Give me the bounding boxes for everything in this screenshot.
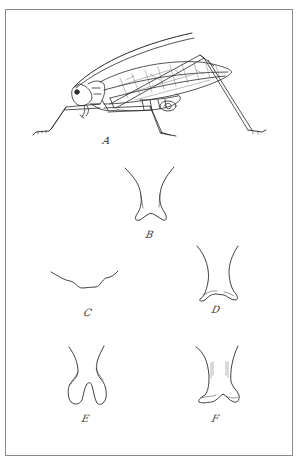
figure-e-outline (68, 346, 106, 404)
figure-c-outline (51, 271, 118, 288)
figure-b-outline (125, 167, 174, 220)
figure-a-katydid (33, 33, 266, 136)
figure-f-outline (196, 346, 239, 403)
figure-d-outline (197, 246, 238, 301)
figure-label-c: C (83, 308, 93, 318)
